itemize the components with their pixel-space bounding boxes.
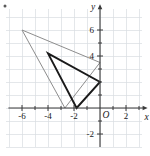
y-tick-label: 6 [90,25,95,35]
figure-background [0,0,150,156]
x-tick-label: 2 [124,111,129,121]
x-tick-label: -6 [18,111,26,121]
origin-label: O [103,110,110,120]
corner-bullet-mark [4,5,7,8]
y-axis-label: y [90,2,96,12]
coordinate-plane-figure: -6-4-2264-2Oxy [0,0,150,156]
x-tick-label: -4 [44,111,52,121]
figure-container: -6-4-2264-2Oxy [0,0,150,156]
x-axis-label: x [143,112,149,122]
y-tick-label: 4 [90,51,95,61]
x-tick-label: -2 [70,111,78,121]
y-tick-label: -2 [87,129,95,139]
